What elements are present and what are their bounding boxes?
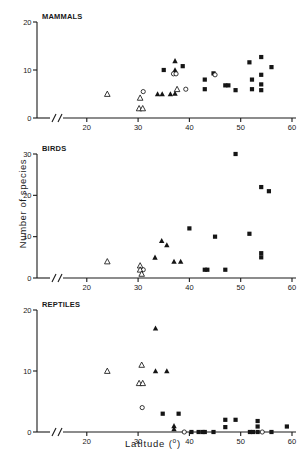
data-point-filled-square bbox=[211, 430, 215, 434]
data-point-filled-square bbox=[203, 87, 207, 91]
x-tick-label: 60 bbox=[288, 123, 296, 132]
data-point-open-circle bbox=[260, 430, 264, 434]
data-point-filled-square bbox=[259, 73, 263, 77]
data-point-filled-square bbox=[259, 55, 263, 59]
x-axis-title-close: ) bbox=[177, 438, 181, 449]
x-tick-label: 60 bbox=[288, 283, 296, 292]
data-point-filled-square bbox=[259, 255, 263, 259]
data-point-filled-triangle bbox=[164, 368, 169, 373]
data-point-filled-square bbox=[223, 418, 227, 422]
data-point-filled-square bbox=[197, 430, 201, 434]
data-point-open-triangle bbox=[105, 91, 111, 96]
panel-title: BIRDS bbox=[42, 144, 66, 153]
data-point-filled-triangle bbox=[160, 91, 165, 96]
data-point-open-triangle bbox=[174, 86, 180, 91]
data-point-filled-square bbox=[181, 64, 185, 68]
data-point-filled-triangle bbox=[168, 91, 173, 96]
x-tick-label: 20 bbox=[83, 283, 91, 292]
data-point-filled-triangle bbox=[153, 326, 158, 331]
data-point-filled-square bbox=[259, 82, 263, 86]
data-point-open-circle bbox=[182, 430, 186, 434]
x-tick-label: 50 bbox=[237, 123, 245, 132]
data-point-filled-triangle bbox=[171, 259, 176, 264]
y-tick-label: 20 bbox=[23, 18, 31, 27]
data-point-filled-square bbox=[285, 424, 289, 428]
data-point-open-triangle bbox=[139, 362, 145, 367]
scatter-plot-mammals: 010202030405060MAMMALS bbox=[0, 0, 306, 140]
data-point-filled-square bbox=[269, 65, 273, 69]
data-point-filled-square bbox=[256, 430, 260, 434]
panel-title: MAMMALS bbox=[42, 12, 83, 21]
data-point-filled-square bbox=[226, 83, 230, 87]
data-point-filled-square bbox=[203, 430, 207, 434]
x-tick-label: 50 bbox=[237, 283, 245, 292]
x-tick-label: 40 bbox=[185, 123, 193, 132]
data-point-filled-square bbox=[213, 235, 217, 239]
data-point-filled-square bbox=[256, 424, 260, 428]
data-point-filled-square bbox=[247, 60, 251, 64]
data-point-filled-square bbox=[256, 419, 260, 423]
data-point-open-circle bbox=[141, 90, 145, 94]
data-point-filled-square bbox=[259, 88, 263, 92]
data-point-filled-square bbox=[162, 68, 166, 72]
data-point-filled-square bbox=[161, 412, 165, 416]
y-tick-label: 20 bbox=[23, 306, 31, 315]
data-point-filled-square bbox=[233, 88, 237, 92]
data-point-filled-square bbox=[233, 152, 237, 156]
y-tick-label: 0 bbox=[27, 428, 31, 437]
data-point-filled-square bbox=[203, 78, 207, 82]
data-point-filled-square bbox=[259, 185, 263, 189]
data-point-open-circle bbox=[140, 406, 144, 410]
data-point-filled-square bbox=[189, 430, 193, 434]
data-point-open-circle bbox=[184, 87, 188, 91]
data-point-filled-square bbox=[187, 226, 191, 230]
data-point-open-triangle bbox=[105, 259, 111, 264]
x-tick-label: 30 bbox=[134, 123, 142, 132]
data-point-filled-square bbox=[250, 87, 254, 91]
y-tick-label: 0 bbox=[27, 274, 31, 283]
data-point-filled-square bbox=[250, 78, 254, 82]
data-point-filled-square bbox=[205, 268, 209, 272]
x-tick-label: 30 bbox=[134, 283, 142, 292]
data-point-filled-triangle bbox=[172, 58, 177, 63]
data-point-filled-square bbox=[177, 412, 181, 416]
y-tick-label: 10 bbox=[23, 66, 31, 75]
data-point-filled-square bbox=[233, 418, 237, 422]
x-tick-label: 20 bbox=[83, 123, 91, 132]
scatter-plot-birds: 01020302030405060BIRDS bbox=[0, 140, 306, 292]
data-point-filled-triangle bbox=[164, 242, 169, 247]
data-point-filled-triangle bbox=[178, 259, 183, 264]
panel-mammals: 010202030405060MAMMALS bbox=[0, 0, 306, 140]
data-point-filled-square bbox=[223, 425, 227, 429]
data-point-open-triangle bbox=[105, 368, 111, 373]
panel-title: REPTILES bbox=[42, 300, 80, 309]
data-point-filled-square bbox=[267, 189, 271, 193]
x-axis-title: Latitude (o) bbox=[0, 437, 306, 449]
y-tick-label: 10 bbox=[23, 367, 31, 376]
y-axis-title: Number of species bbox=[17, 134, 28, 274]
data-point-filled-triangle bbox=[155, 91, 160, 96]
data-point-filled-square bbox=[223, 268, 227, 272]
data-point-open-circle bbox=[174, 72, 178, 76]
data-point-open-circle bbox=[213, 73, 217, 77]
x-tick-label: 40 bbox=[185, 283, 193, 292]
data-point-open-triangle bbox=[137, 95, 143, 100]
data-point-filled-square bbox=[251, 430, 255, 434]
data-point-filled-triangle bbox=[153, 368, 158, 373]
data-point-filled-triangle bbox=[152, 255, 157, 260]
data-point-filled-square bbox=[269, 430, 273, 434]
data-point-filled-square bbox=[247, 232, 251, 236]
y-tick-label: 0 bbox=[27, 114, 31, 123]
panel-birds: 01020302030405060BIRDS bbox=[0, 140, 306, 292]
data-point-filled-square bbox=[259, 251, 263, 255]
x-axis-title-text: Latitude ( bbox=[125, 438, 173, 449]
data-point-filled-triangle bbox=[159, 238, 164, 243]
